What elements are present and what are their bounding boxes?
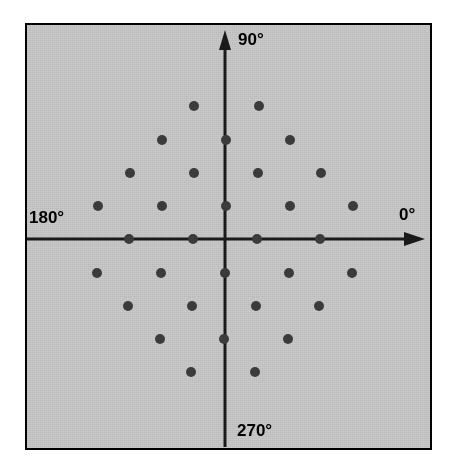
axis-label-90: 90° (238, 30, 264, 50)
axis-label-270: 270° (237, 421, 272, 441)
plot-panel (25, 23, 432, 450)
figure-root: 90° 0° 180° 270° (0, 0, 455, 474)
axis-label-180: 180° (29, 208, 64, 228)
axis-label-0: 0° (399, 205, 415, 225)
paper-grain-texture (27, 25, 430, 448)
